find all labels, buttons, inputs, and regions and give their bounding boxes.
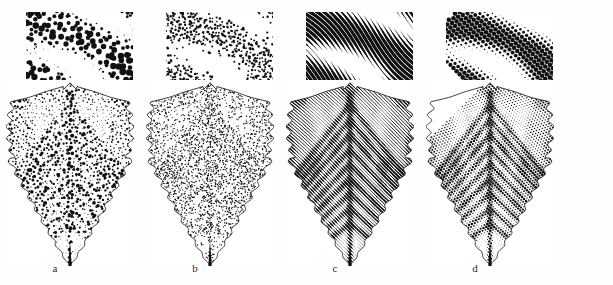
panel-d: d [420,0,560,285]
texture-swatch-b [166,12,273,90]
texture-swatch-d [446,12,553,90]
panel-label-text: a [53,262,58,274]
panel-label-text: b [192,262,198,274]
panel-b: b [140,0,280,285]
panel-label-c: c [280,262,420,274]
panel-label-d: d [420,262,560,274]
panel-label-text: c [333,262,338,274]
leaf-illustration-d [426,80,558,270]
panel-a: a [0,0,140,285]
texture-swatch-a [26,12,133,90]
leaf-illustration-a [6,80,138,270]
leaf-illustration-c [286,80,418,270]
panel-label-text: d [472,262,478,274]
texture-swatch-c [306,12,413,90]
panel-label-a: a [0,262,140,274]
leaf-illustration-b [146,80,278,270]
panel-c: c [280,0,420,285]
figure-halftone-comparison: abcd [0,0,613,285]
panel-label-b: b [140,262,280,274]
